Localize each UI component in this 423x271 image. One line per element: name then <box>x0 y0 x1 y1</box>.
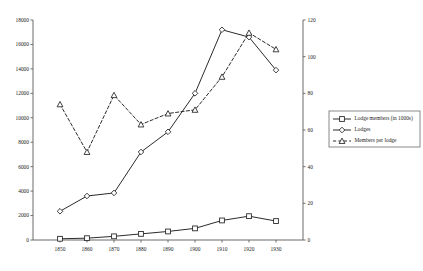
x-tick-label: 1880 <box>136 246 147 252</box>
data-point-diamond-marker <box>84 193 90 199</box>
data-point-triangle-marker <box>84 149 90 154</box>
right-axis-ticks: 020406080100120 <box>303 17 316 243</box>
x-tick-label: 1930 <box>271 246 282 252</box>
right-tick-label: 20 <box>308 200 314 206</box>
left-tick-label: 18000 <box>16 17 30 23</box>
chart-canvas: 0200040006000800010000120001400016000180… <box>0 0 423 271</box>
data-point-triangle-marker <box>219 74 225 79</box>
right-tick-label: 120 <box>308 17 316 23</box>
legend-item-label: Lodge members (in 1000s) <box>355 115 413 122</box>
right-tick-label: 80 <box>308 90 314 96</box>
left-tick-label: 16000 <box>16 41 30 47</box>
right-tick-label: 100 <box>308 54 316 60</box>
data-point-square-marker <box>58 236 63 241</box>
data-point-square-marker <box>274 219 279 224</box>
right-tick-label: 40 <box>308 164 314 170</box>
data-point-triangle-marker <box>111 92 117 97</box>
left-tick-label: 12000 <box>16 90 30 96</box>
left-tick-label: 2000 <box>18 212 29 218</box>
data-point-triangle-marker <box>246 30 252 35</box>
x-tick-label: 1900 <box>190 246 201 252</box>
series-line <box>60 216 276 239</box>
data-point-diamond-marker <box>111 190 117 196</box>
data-point-square-marker <box>193 226 198 231</box>
chart-figure: 0200040006000800010000120001400016000180… <box>0 0 423 271</box>
chart-legend: Lodge members (in 1000s)LodgesMembers pe… <box>329 111 420 147</box>
legend-item-label: Members per lodge <box>355 137 398 143</box>
right-tick-label: 60 <box>308 127 314 133</box>
left-tick-label: 10000 <box>16 115 30 121</box>
left-axis-ticks: 0200040006000800010000120001400016000180… <box>16 17 33 243</box>
x-tick-label: 1890 <box>163 246 174 252</box>
series-layer <box>57 27 279 241</box>
data-point-square-marker <box>166 229 171 234</box>
series-lodge-members-in-1000s <box>58 214 279 241</box>
data-point-diamond-marker <box>57 208 63 214</box>
left-tick-label: 14000 <box>16 66 30 72</box>
left-tick-label: 6000 <box>18 164 29 170</box>
x-tick-label: 1920 <box>244 246 255 252</box>
legend-item-label: Lodges <box>355 126 371 132</box>
left-tick-label: 4000 <box>18 188 29 194</box>
series-members-per-lodge <box>57 30 279 155</box>
left-tick-label: 0 <box>26 237 29 243</box>
x-tick-label: 1870 <box>109 246 120 252</box>
series-line <box>60 30 276 212</box>
data-point-diamond-marker <box>219 27 225 33</box>
x-tick-label: 1850 <box>55 246 66 252</box>
left-tick-label: 8000 <box>18 139 29 145</box>
x-tick-label: 1910 <box>217 246 228 252</box>
data-point-triangle-marker <box>57 101 63 106</box>
data-point-square-marker <box>85 236 90 241</box>
series-lodges <box>57 27 279 214</box>
data-point-square-marker <box>139 231 144 236</box>
right-tick-label: 0 <box>308 237 311 243</box>
x-axis-ticks: 185018601870188018901900191019201930 <box>55 240 282 252</box>
data-point-square-marker <box>247 214 252 219</box>
x-tick-label: 1860 <box>82 246 93 252</box>
data-point-square-marker <box>220 218 225 223</box>
data-point-square-marker <box>112 234 117 239</box>
data-point-square-marker <box>340 117 345 122</box>
data-point-triangle-marker <box>273 46 279 51</box>
